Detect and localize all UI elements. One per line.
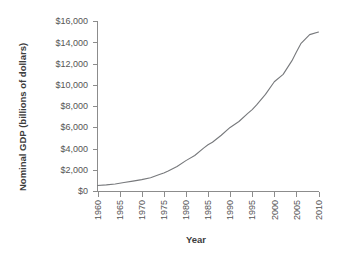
y-axis-title: Nominal GDP (billions of dollars) <box>17 43 28 191</box>
y-axis-tick-marks <box>93 22 98 192</box>
x-tick-label: 1970 <box>137 200 147 220</box>
x-tick-label: 1975 <box>159 200 169 220</box>
x-tick-label: 2000 <box>270 200 280 220</box>
y-tick-label: $14,000 <box>55 38 88 48</box>
x-axis-title: Year <box>186 234 206 245</box>
line-chart: Nominal GDP (billions of dollars) Year $… <box>0 0 337 257</box>
y-tick-label: $16,000 <box>55 16 88 26</box>
y-tick-label: $6,000 <box>60 122 88 132</box>
x-tick-label: 1960 <box>93 200 103 220</box>
y-tick-label: $4,000 <box>60 144 88 154</box>
x-tick-label: 2005 <box>292 200 302 220</box>
gdp-data-line <box>98 32 319 185</box>
y-tick-label: $2,000 <box>60 165 88 175</box>
x-tick-label: 1985 <box>203 200 213 220</box>
x-axis-tick-labels: 1960196519701975198019851990199520002005… <box>93 200 324 220</box>
x-tick-label: 1980 <box>181 200 191 220</box>
x-tick-label: 1965 <box>115 200 125 220</box>
x-axis-tick-marks <box>99 192 320 197</box>
x-tick-label: 1990 <box>225 200 235 220</box>
y-tick-label: $0 <box>78 186 88 196</box>
y-tick-label: $8,000 <box>60 101 88 111</box>
y-axis-title-group: Nominal GDP (billions of dollars) <box>17 43 28 191</box>
chart-container: Nominal GDP (billions of dollars) Year $… <box>0 0 337 257</box>
y-tick-label: $10,000 <box>55 80 88 90</box>
x-tick-label: 2010 <box>314 200 324 220</box>
y-tick-label: $12,000 <box>55 59 88 69</box>
x-axis-title-group: Year <box>186 234 206 245</box>
y-axis-tick-labels: $0$2,000$4,000$6,000$8,000$10,000$12,000… <box>55 16 88 196</box>
x-tick-label: 1995 <box>247 200 257 220</box>
